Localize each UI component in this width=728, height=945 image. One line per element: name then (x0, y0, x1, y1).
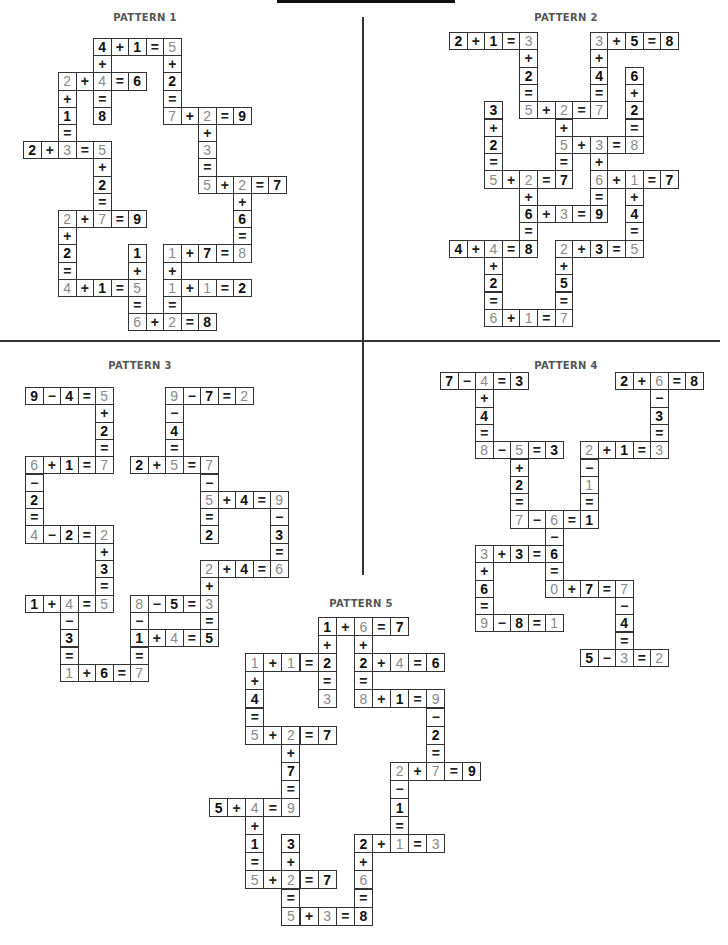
given-number-cell: 7 (130, 664, 149, 682)
operator-cell: = (484, 153, 503, 171)
given-number-cell: 2 (58, 72, 77, 90)
answer-number-cell: 5 (555, 274, 574, 292)
operator-cell: = (245, 708, 264, 727)
operator-cell: = (502, 32, 521, 50)
given-number-cell: 5 (510, 441, 529, 459)
answer-number-cell: 6 (545, 545, 564, 563)
answer-number-cell: 2 (449, 32, 468, 50)
given-number-cell: 7 (615, 580, 634, 598)
answer-number-cell: 3 (60, 629, 79, 647)
operator-cell: = (390, 816, 409, 835)
operator-cell: + (372, 653, 391, 672)
given-number-cell: 1 (245, 653, 264, 672)
given-number-cell: 3 (198, 141, 217, 159)
answer-number-cell: 2 (519, 67, 538, 85)
operator-cell: + (76, 210, 95, 228)
operator-cell: − (165, 404, 184, 422)
given-number-cell: 4 (60, 595, 79, 613)
operator-cell: = (580, 493, 599, 511)
answer-number-cell: 2 (25, 491, 44, 509)
given-number-cell: 0 (545, 580, 564, 598)
given-number-cell: 9 (281, 798, 300, 817)
operator-cell: = (198, 158, 217, 176)
given-number-cell: 1 (519, 309, 538, 327)
answer-number-cell: 7 (580, 580, 599, 598)
operator-cell: + (475, 389, 494, 407)
given-number-cell: 6 (270, 560, 289, 578)
answer-number-cell: 4 (165, 422, 184, 440)
answer-number-cell: 9 (233, 107, 252, 125)
operator-cell: = (270, 543, 289, 561)
given-number-cell: 6 (354, 870, 373, 889)
operator-cell: + (76, 279, 95, 297)
operator-cell: = (563, 510, 582, 528)
operator-cell: = (426, 744, 445, 763)
answer-number-cell: 6 (233, 210, 252, 228)
given-number-cell: 8 (354, 689, 373, 708)
answer-number-cell: 6 (625, 67, 644, 85)
answer-number-cell: 4 (625, 205, 644, 223)
operator-cell: = (216, 107, 235, 125)
answer-number-cell: 1 (390, 798, 409, 817)
operator-cell: = (76, 141, 95, 159)
given-number-cell: 9 (475, 614, 494, 632)
vertical-divider (362, 17, 364, 575)
answer-number-cell: 2 (130, 456, 149, 474)
given-number-cell: 6 (128, 313, 147, 331)
operator-cell: + (519, 188, 538, 206)
operator-cell: = (253, 491, 272, 509)
answer-number-cell: 6 (519, 205, 538, 223)
answer-number-cell: 2 (60, 525, 79, 543)
operator-cell: + (572, 240, 591, 258)
operator-cell: + (163, 262, 182, 280)
operator-cell: = (643, 170, 662, 188)
operator-cell: + (493, 545, 512, 563)
answer-number-cell: 2 (23, 141, 42, 159)
operator-cell: = (163, 90, 182, 108)
operator-cell: = (163, 296, 182, 314)
given-number-cell: 6 (25, 456, 44, 474)
answer-number-cell: 7 (198, 244, 217, 262)
operator-cell: − (270, 508, 289, 526)
given-number-cell: 5 (200, 491, 219, 509)
answer-number-cell: 5 (200, 629, 219, 647)
operator-cell: = (300, 726, 319, 745)
answer-number-cell: 8 (685, 372, 704, 390)
given-number-cell: 8 (233, 244, 252, 262)
answer-number-cell: 4 (615, 614, 634, 632)
given-number-cell: 7 (510, 510, 529, 528)
answer-number-cell: 7 (660, 170, 679, 188)
operator-cell: = (218, 387, 237, 405)
answer-number-cell: 3 (281, 834, 300, 853)
operator-cell: = (643, 32, 662, 50)
operator-cell: = (78, 387, 97, 405)
given-number-cell: 5 (245, 870, 264, 889)
operator-cell: = (78, 525, 97, 543)
given-number-cell: 3 (426, 834, 445, 853)
operator-cell: = (354, 889, 373, 908)
answer-number-cell: 2 (615, 372, 634, 390)
given-number-cell: 6 (354, 617, 373, 636)
given-number-cell: 2 (650, 649, 669, 667)
operator-cell: = (444, 762, 463, 781)
answer-number-cell: 1 (390, 689, 409, 708)
operator-cell: + (146, 313, 165, 331)
answer-number-cell: 8 (93, 107, 112, 125)
operator-cell: + (372, 689, 391, 708)
given-number-cell: 5 (95, 387, 114, 405)
operator-cell: = (216, 279, 235, 297)
answer-number-cell: 3 (270, 525, 289, 543)
operator-cell: = (528, 614, 547, 632)
operator-cell: + (148, 629, 167, 647)
given-number-cell: 3 (58, 141, 77, 159)
operator-cell: + (95, 404, 114, 422)
answer-number-cell: 4 (235, 560, 254, 578)
given-number-cell: 2 (58, 210, 77, 228)
answer-number-cell: 8 (354, 907, 373, 926)
given-number-cell: 1 (580, 476, 599, 494)
operator-cell: = (183, 629, 202, 647)
operator-cell: = (200, 508, 219, 526)
answer-number-cell: 2 (163, 72, 182, 90)
answer-number-cell: 3 (510, 545, 529, 563)
operator-cell: + (200, 577, 219, 595)
